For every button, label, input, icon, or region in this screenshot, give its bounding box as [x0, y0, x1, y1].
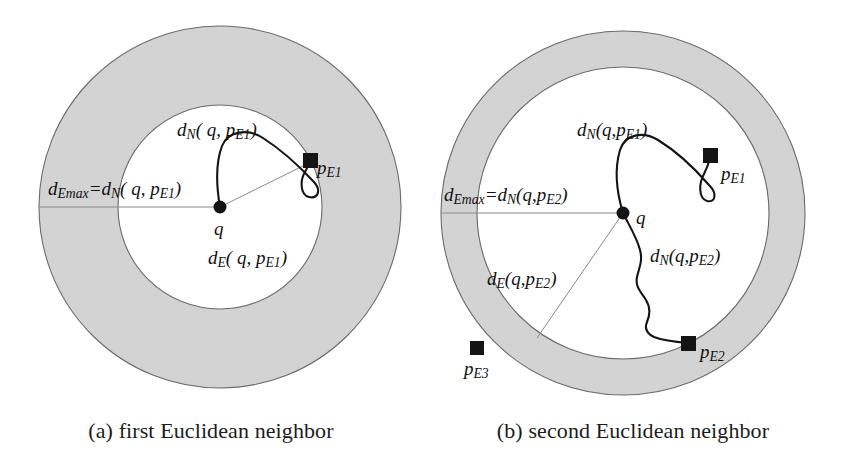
- panel-a-diagram: dEmax=dN( q, pE1) dN( q, pE1) dE( q, pE1…: [0, 0, 422, 420]
- label-q-b: q: [636, 207, 646, 228]
- panel-second-euclidean-neighbor: dEmax=dN(q,pE2) dN(q,pE1) dN(q,pE2) dE(q…: [422, 0, 844, 472]
- panel-b-diagram: dEmax=dN(q,pE2) dN(q,pE1) dN(q,pE2) dE(q…: [422, 0, 844, 420]
- annulus-shaded-region-a: [0, 0, 422, 420]
- caption-panel-a: (a) first Euclidean neighbor: [0, 418, 422, 444]
- annulus-shaded-region-b: [422, 0, 844, 420]
- point-pe1-a: [303, 153, 318, 168]
- point-pe2-b: [681, 336, 696, 351]
- point-pe1-b: [703, 148, 718, 163]
- panel-first-euclidean-neighbor: dEmax=dN( q, pE1) dN( q, pE1) dE( q, pE1…: [0, 0, 422, 472]
- point-pe3-b: [470, 341, 484, 355]
- label-q-a: q: [214, 218, 224, 239]
- point-q-b: [617, 207, 630, 220]
- caption-panel-b: (b) second Euclidean neighbor: [422, 418, 844, 444]
- point-q-a: [214, 201, 227, 214]
- figure-root: dEmax=dN( q, pE1) dN( q, pE1) dE( q, pE1…: [0, 0, 844, 472]
